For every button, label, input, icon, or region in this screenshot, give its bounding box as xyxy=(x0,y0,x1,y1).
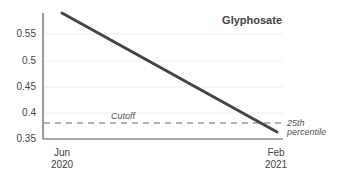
y-tick-labels: 0.55 0.5 0.45 0.4 0.35 xyxy=(17,28,37,144)
percentile-label-line2: percentile xyxy=(286,127,326,137)
cutoff-label: Cutoff xyxy=(111,111,137,121)
x-tick-feb-year: 2021 xyxy=(265,159,288,170)
x-tick-labels: Jun 2020 Feb 2021 xyxy=(51,147,288,170)
y-tick-045: 0.45 xyxy=(17,81,37,92)
y-tick-055: 0.55 xyxy=(17,28,37,39)
chart-title: Glyphosate xyxy=(222,14,282,26)
y-tick-05: 0.5 xyxy=(22,55,36,66)
glyphosate-series-line xyxy=(62,13,277,132)
x-tick-jun-year: 2020 xyxy=(51,159,74,170)
y-tick-035: 0.35 xyxy=(17,133,37,144)
x-tick-feb-month: Feb xyxy=(267,147,285,158)
glyphosate-line-chart: 0.55 0.5 0.45 0.4 0.35 Jun 2020 Feb 2021… xyxy=(0,0,340,177)
x-tick-jun-month: Jun xyxy=(54,147,70,158)
gridlines xyxy=(44,34,283,113)
y-tick-04: 0.4 xyxy=(22,107,36,118)
